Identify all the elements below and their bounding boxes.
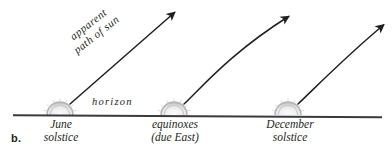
station-label-june-solstice-line2: solstice [21, 131, 101, 144]
station-label-december-solstice: December solstice [245, 118, 335, 144]
station-label-equinoxes: equinoxes (due East) [132, 118, 218, 144]
sun-group-june-solstice [44, 98, 76, 115]
station-label-june-solstice-line1: June [21, 118, 101, 131]
arrow-equinoxes-path [184, 17, 289, 105]
station-label-december-solstice-line1: December [245, 118, 335, 131]
station-label-december-solstice-line2: solstice [245, 131, 335, 144]
horizon-line [13, 115, 382, 117]
horizon-label: horizon [92, 96, 133, 108]
arrow-december-solstice-path [298, 25, 384, 104]
station-label-june-solstice: June solstice [21, 118, 101, 144]
sun-group-equinoxes [158, 98, 190, 115]
sun-path-diagram: apparent path of sun horizon June solsti… [0, 0, 392, 159]
station-label-equinoxes-line2: (due East) [132, 131, 218, 144]
figure-part-letter: b. [11, 132, 21, 144]
station-label-equinoxes-line1: equinoxes [132, 118, 218, 131]
sun-group-december-solstice [272, 98, 304, 115]
